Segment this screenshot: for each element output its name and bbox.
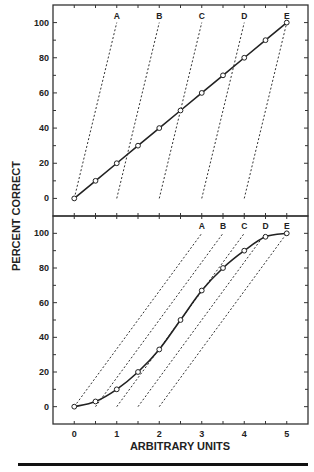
x-tick-label: 0 xyxy=(72,429,77,439)
data-point xyxy=(242,248,247,253)
data-point xyxy=(284,20,289,25)
data-point xyxy=(284,231,289,236)
data-point xyxy=(221,266,226,271)
dashed-line-b xyxy=(96,233,224,406)
dashed-line-label: B xyxy=(156,11,162,21)
x-tick-label: 4 xyxy=(242,429,247,439)
dashed-line-label: B xyxy=(220,221,226,231)
bottom-panel: 020406080100012345ABCDE xyxy=(34,216,308,439)
y-tick-label: 40 xyxy=(39,332,49,342)
x-tick-label: 3 xyxy=(199,429,204,439)
data-point xyxy=(178,108,183,113)
data-point xyxy=(72,196,77,201)
data-point xyxy=(263,234,268,239)
y-tick-label: 20 xyxy=(39,367,49,377)
data-point xyxy=(114,161,119,166)
data-point xyxy=(72,404,77,409)
data-point xyxy=(221,73,226,78)
x-axis-title: ARBITRARY UNITS xyxy=(130,440,230,452)
y-tick-label: 0 xyxy=(44,402,49,412)
data-point xyxy=(136,370,141,375)
x-tick-label: 2 xyxy=(157,429,162,439)
dashed-line-a xyxy=(74,23,117,199)
dashed-line-d xyxy=(138,233,266,406)
y-tick-label: 0 xyxy=(44,193,49,203)
data-point xyxy=(199,288,204,293)
dashed-line-label: A xyxy=(114,11,120,21)
bottom-rule xyxy=(18,463,308,466)
dashed-line-label: E xyxy=(284,11,290,21)
y-tick-label: 60 xyxy=(39,298,49,308)
dashed-line-label: C xyxy=(241,221,247,231)
data-point xyxy=(263,38,268,43)
x-tick-label: 5 xyxy=(284,429,289,439)
dashed-line-label: A xyxy=(199,221,205,231)
dashed-line-e xyxy=(244,23,287,199)
dashed-line-label: D xyxy=(262,221,268,231)
y-tick-label: 100 xyxy=(34,18,49,28)
data-point xyxy=(93,178,98,183)
top-panel: 020406080100ABCDE xyxy=(34,5,308,219)
y-tick-label: 80 xyxy=(39,53,49,63)
dashed-line-d xyxy=(202,23,245,199)
data-point xyxy=(178,318,183,323)
y-tick-label: 60 xyxy=(39,88,49,98)
data-point xyxy=(136,143,141,148)
y-tick-label: 80 xyxy=(39,263,49,273)
dashed-line-label: D xyxy=(241,11,247,21)
y-tick-label: 20 xyxy=(39,158,49,168)
data-point xyxy=(199,91,204,96)
data-point xyxy=(114,387,119,392)
chart-figure: 020406080100ABCDE 020406080100012345ABCD… xyxy=(0,0,314,472)
y-axis-title: PERCENT CORRECT xyxy=(10,161,22,271)
data-point xyxy=(93,399,98,404)
data-point xyxy=(157,347,162,352)
y-tick-label: 40 xyxy=(39,123,49,133)
dashed-line-b xyxy=(117,23,160,199)
data-point xyxy=(242,55,247,60)
x-tick-label: 1 xyxy=(114,429,119,439)
dashed-line-label: E xyxy=(284,221,290,231)
y-tick-label: 100 xyxy=(34,228,49,238)
data-point xyxy=(157,126,162,131)
dashed-line-label: C xyxy=(199,11,205,21)
